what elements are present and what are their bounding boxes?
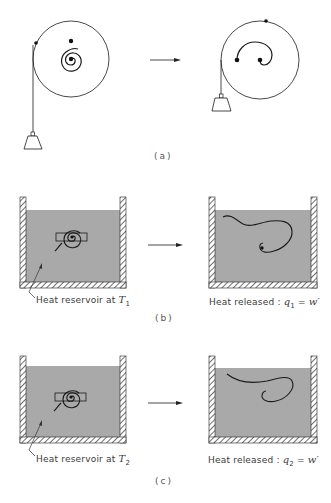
label-text: Heat reservoir at [36,295,119,305]
panel-a [24,19,299,149]
label-rhs: w′ [309,296,320,307]
panel-c [20,356,317,456]
reservoir-t1-before [20,197,126,298]
caption-a: (a) [154,151,173,161]
label-text: Heat reservoir at [36,454,119,464]
label-eq: = [295,297,309,307]
label-text: Heat released : [209,297,284,307]
label-heat-reservoir-t2: Heat reservoir at T2 [36,453,130,467]
reservoir-t2-before [20,356,126,456]
label-sub: 1 [125,300,130,308]
spiral-spring-unwound [237,42,272,65]
arrow-b [148,243,183,247]
label-sub: 2 [125,459,130,467]
arrow-c [148,401,183,405]
wound-spring-with-weight [24,21,109,149]
label-heat-released-q1: Heat released : q1 = w′ [209,296,320,310]
arrow-a [150,58,181,62]
label-eq: = [294,455,308,465]
unwound-spring-with-weight [212,19,299,111]
caption-b: (b) [155,313,174,323]
rope-attach-dot [34,41,38,45]
label-heat-reservoir-t1: Heat reservoir at T1 [36,294,130,308]
reservoir-t2-after [209,356,317,443]
weight-raised [212,98,231,111]
label-heat-released-q2: Heat released : q2 = w′ [208,454,319,468]
label-rhs: w′ [308,454,319,465]
figure-canvas [0,0,331,503]
weight-low [24,136,42,149]
panel-b [20,197,317,298]
reservoir-t1-after [209,197,317,288]
label-text: Heat released : [208,455,283,465]
caption-c: (c) [155,476,173,486]
